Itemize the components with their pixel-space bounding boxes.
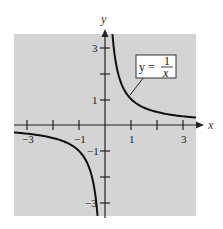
- annotation-lhs: y =: [139, 60, 155, 74]
- y-tick-label: 3: [92, 42, 98, 54]
- x-tick-label: −1: [74, 133, 86, 145]
- annotation-denominator: x: [162, 66, 169, 80]
- chart: x y −3 −1 1 3 3 1 −1 −3 y = 1 x: [0, 0, 223, 229]
- x-axis-label: x: [207, 118, 214, 132]
- x-tick-label: 3: [181, 133, 187, 145]
- y-tick-label: −1: [87, 145, 99, 157]
- y-axis-arrow-icon: [102, 29, 109, 37]
- x-axis-arrow-icon: [196, 122, 204, 129]
- x-tick-label: 1: [129, 133, 135, 145]
- y-axis-label: y: [100, 12, 107, 26]
- y-tick-label: 1: [92, 94, 98, 106]
